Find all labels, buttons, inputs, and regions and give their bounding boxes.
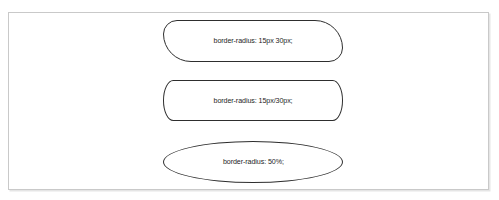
shape-label-slash: border-radius: 15px/30px; — [213, 97, 292, 105]
screenshot-root: border-radius: 15px 30px; border-radius:… — [0, 0, 499, 200]
shape-stack: border-radius: 15px 30px; border-radius:… — [9, 13, 488, 189]
shape-border-radius-percent: border-radius: 50%; — [163, 141, 343, 183]
figure-frame: border-radius: 15px 30px; border-radius:… — [8, 12, 489, 190]
shape-border-radius-slash: border-radius: 15px/30px; — [163, 80, 343, 121]
shape-border-radius-two-value: border-radius: 15px 30px; — [163, 20, 343, 62]
shape-label-two-value: border-radius: 15px 30px; — [213, 37, 292, 45]
shape-label-percent: border-radius: 50%; — [223, 158, 284, 166]
